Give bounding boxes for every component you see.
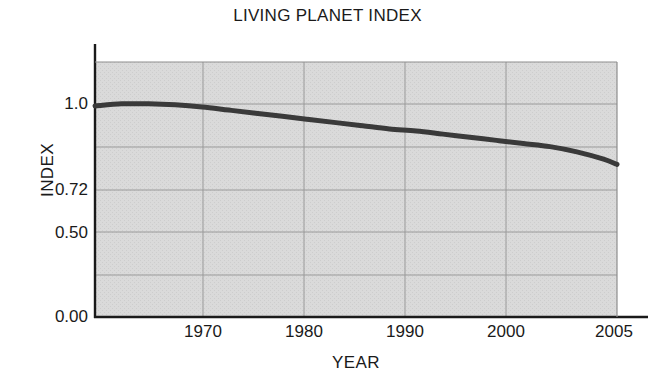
chart-figure: LIVING PLANET INDEX INDEX 1.0 0.72 0.50 … bbox=[0, 0, 655, 386]
plot-canvas bbox=[0, 0, 655, 386]
